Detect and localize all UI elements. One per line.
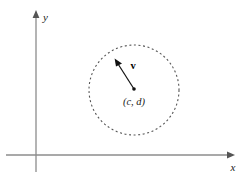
center-point-dot [132, 87, 136, 91]
x-axis-arrow-icon [227, 152, 235, 159]
diagram-canvas: y x (c, d) v [0, 0, 247, 176]
vector-field-diagram: y x (c, d) v [0, 0, 247, 176]
vector-arrow-head-icon [115, 58, 122, 66]
y-axis-label: y [42, 11, 48, 23]
center-point-label: (c, d) [123, 96, 146, 108]
vector-label: v [130, 60, 136, 71]
x-axis-label: x [230, 161, 236, 173]
y-axis-arrow-icon [33, 10, 40, 18]
